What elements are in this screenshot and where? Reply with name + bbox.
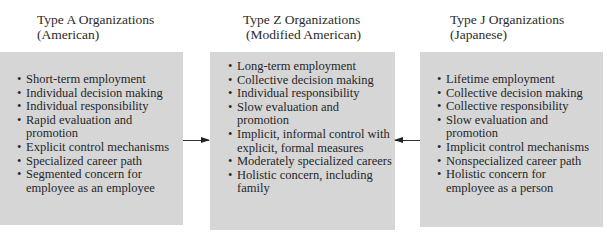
type-z-title: Type Z Organizations (Modified American) (243, 12, 361, 42)
type-j-box: Lifetime employment Collective decision … (420, 52, 603, 227)
list-item: Specialized career path (17, 155, 183, 169)
list-item: Moderately specialized careers (228, 155, 395, 169)
list-item: Implicit, informal control with explicit… (228, 128, 397, 155)
arrow-j-to-z (395, 140, 420, 141)
list-item: Implicit control mechanisms (437, 141, 603, 155)
list-item: Segmented concern for employee as an emp… (17, 168, 176, 195)
type-a-title-line2: (American) (37, 27, 154, 42)
arrowhead-left-icon (394, 137, 403, 143)
list-item: Individual responsibility (228, 87, 395, 101)
type-a-title: Type A Organizations (American) (37, 12, 154, 42)
list-item: Collective decision making (437, 87, 603, 101)
list-item: Long-term employment (228, 60, 395, 74)
list-item: Nonspecialized career path (437, 155, 603, 169)
list-item: Holistic concern for employee as a perso… (437, 168, 586, 195)
type-z-title-line1: Type Z Organizations (243, 12, 361, 27)
type-a-title-line1: Type A Organizations (37, 12, 154, 27)
list-item: Slow evaluation and promotion (437, 114, 556, 141)
list-item: Lifetime employment (437, 73, 603, 87)
list-item: Collective responsibility (437, 100, 603, 114)
list-item: Short-term employment (17, 73, 183, 87)
arrow-a-to-z (183, 140, 209, 141)
arrowhead-right-icon (201, 137, 210, 143)
list-item: Individual decision making (17, 87, 183, 101)
type-j-title: Type J Organizations (Japanese) (450, 12, 564, 42)
list-item: Individual responsibility (17, 100, 183, 114)
list-item: Rapid evaluation and promotion (17, 114, 146, 141)
list-item: Holistic concern, including family (228, 169, 377, 196)
list-item: Slow evaluation and promotion (228, 101, 347, 128)
type-a-box: Short-term employment Individual decisio… (0, 52, 183, 225)
type-j-title-line2: (Japanese) (450, 27, 564, 42)
type-j-title-line1: Type J Organizations (450, 12, 564, 27)
list-item: Collective decision making (228, 74, 395, 88)
type-z-title-line2: (Modified American) (243, 27, 361, 42)
list-item: Explicit control mechanisms (17, 141, 183, 155)
type-z-box: Long-term employment Collective decision… (210, 52, 395, 230)
